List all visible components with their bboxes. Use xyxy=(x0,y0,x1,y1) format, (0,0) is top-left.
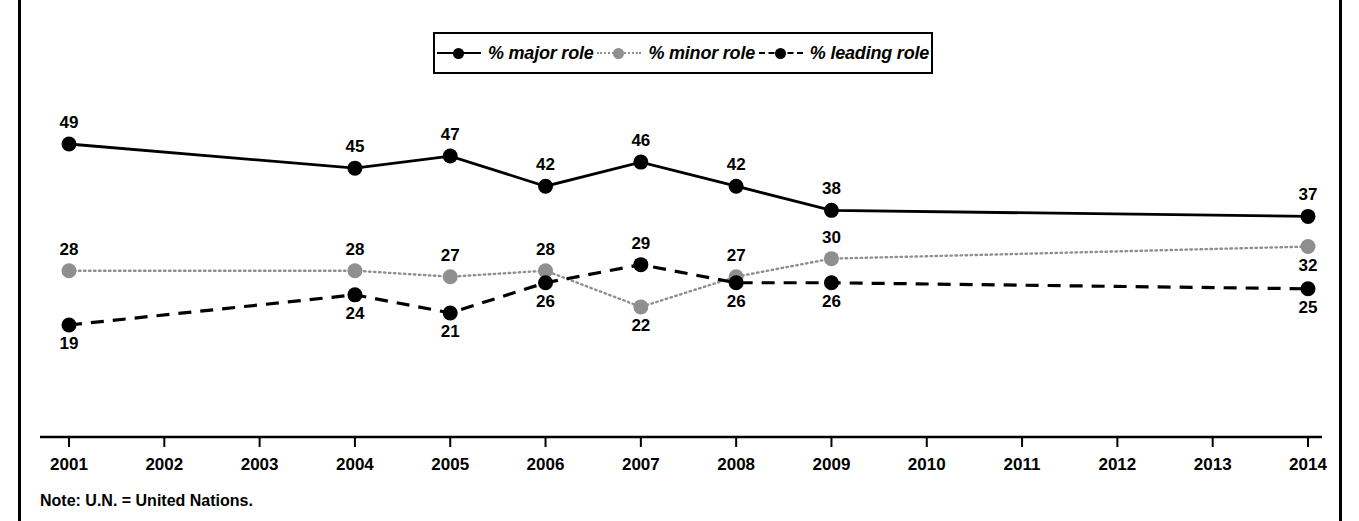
data-point-marker xyxy=(347,161,362,176)
series-line xyxy=(69,144,1308,216)
legend-label-minor-role: % minor role xyxy=(648,43,755,64)
x-axis-tick-label: 2003 xyxy=(241,455,279,475)
data-point-value-label: 26 xyxy=(536,292,555,312)
x-axis-tick-label: 2010 xyxy=(908,455,946,475)
data-point-marker xyxy=(1301,239,1316,254)
data-point-value-label: 46 xyxy=(631,131,650,151)
x-axis-tick-label: 2005 xyxy=(431,455,469,475)
data-point-marker xyxy=(729,275,744,290)
legend-line-marker-icon xyxy=(597,47,641,59)
line-chart-plot xyxy=(0,0,1359,521)
data-point-value-label: 27 xyxy=(441,246,460,266)
data-point-value-label: 45 xyxy=(345,137,364,157)
data-point-value-label: 25 xyxy=(1299,298,1318,318)
data-point-marker xyxy=(824,251,839,266)
data-point-marker xyxy=(62,263,77,278)
data-point-marker xyxy=(1301,281,1316,296)
legend-line-marker-icon xyxy=(437,47,481,59)
legend-item-minor-role: % minor role xyxy=(597,43,755,64)
data-point-value-label: 29 xyxy=(631,234,650,254)
x-axis-tick-label: 2009 xyxy=(813,455,851,475)
data-point-value-label: 32 xyxy=(1299,256,1318,276)
x-axis-tick-label: 2004 xyxy=(336,455,374,475)
x-axis-tick-label: 2011 xyxy=(1004,455,1041,475)
series-line xyxy=(69,265,1308,325)
legend-item-leading-role: % leading role xyxy=(759,43,929,64)
x-axis-tick-label: 2006 xyxy=(527,455,565,475)
data-point-value-label: 28 xyxy=(536,240,555,260)
data-point-value-label: 21 xyxy=(441,322,460,342)
data-point-marker xyxy=(347,263,362,278)
data-point-marker xyxy=(443,269,458,284)
data-point-value-label: 28 xyxy=(345,240,364,260)
data-point-marker xyxy=(824,203,839,218)
data-point-marker xyxy=(633,155,648,170)
data-point-value-label: 42 xyxy=(727,155,746,175)
x-axis-tick-label: 2014 xyxy=(1289,455,1327,475)
data-point-marker xyxy=(729,179,744,194)
data-point-value-label: 42 xyxy=(536,155,555,175)
data-point-value-label: 19 xyxy=(60,334,79,354)
data-point-marker xyxy=(633,299,648,314)
data-point-value-label: 24 xyxy=(345,304,364,324)
data-point-marker xyxy=(347,287,362,302)
data-point-marker xyxy=(538,275,553,290)
chart-figure: % major role % minor role % leading role… xyxy=(0,0,1359,521)
data-point-value-label: 22 xyxy=(631,316,650,336)
data-point-marker xyxy=(824,275,839,290)
data-point-value-label: 28 xyxy=(60,240,79,260)
data-point-value-label: 49 xyxy=(60,113,79,133)
x-axis-layer xyxy=(40,437,1322,447)
chart-legend: % major role % minor role % leading role xyxy=(433,32,933,74)
data-point-marker xyxy=(62,318,77,333)
x-axis-tick-label: 2008 xyxy=(717,455,755,475)
data-point-value-label: 30 xyxy=(822,228,841,248)
data-point-marker xyxy=(62,137,77,152)
data-point-marker xyxy=(1301,209,1316,224)
series-layer xyxy=(62,137,1316,333)
data-point-marker xyxy=(443,305,458,320)
data-point-value-label: 37 xyxy=(1299,185,1318,205)
data-point-value-label: 47 xyxy=(441,125,460,145)
x-axis-tick-label: 2002 xyxy=(145,455,183,475)
x-axis-tick-label: 2013 xyxy=(1194,455,1232,475)
legend-line-marker-icon xyxy=(759,47,803,59)
legend-label-leading-role: % leading role xyxy=(810,43,929,64)
data-point-marker xyxy=(538,179,553,194)
x-axis-tick-label: 2012 xyxy=(1098,455,1136,475)
legend-item-major-role: % major role xyxy=(437,43,594,64)
x-axis-tick-label: 2007 xyxy=(622,455,660,475)
data-point-marker xyxy=(633,257,648,272)
data-point-value-label: 26 xyxy=(822,292,841,312)
data-point-value-label: 26 xyxy=(727,292,746,312)
x-axis-tick-label: 2001 xyxy=(50,455,88,475)
data-point-value-label: 27 xyxy=(727,246,746,266)
data-point-value-label: 38 xyxy=(822,179,841,199)
data-point-marker xyxy=(443,149,458,164)
legend-label-major-role: % major role xyxy=(488,43,594,64)
series-line xyxy=(69,247,1308,307)
chart-note: Note: U.N. = United Nations. xyxy=(40,492,253,510)
